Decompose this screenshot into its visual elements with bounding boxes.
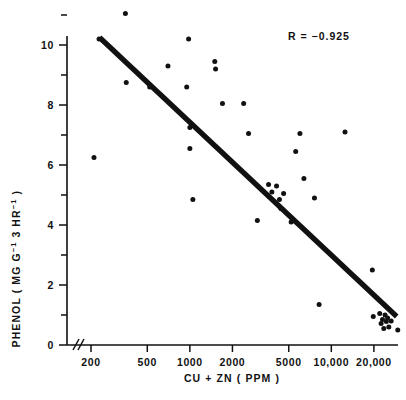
data-point xyxy=(187,146,192,151)
x-axis-title: CU + ZN ( PPM ) xyxy=(184,372,280,384)
data-point xyxy=(277,197,282,202)
data-point xyxy=(301,176,306,181)
data-point xyxy=(213,67,218,72)
chart-canvas: 0246810 20050010002000500010,00020,000 R… xyxy=(0,0,406,400)
data-point xyxy=(123,11,128,16)
data-point xyxy=(312,196,317,201)
y-tick-label-6: 6 xyxy=(48,159,54,171)
data-point xyxy=(395,328,400,333)
x-tick-label-500: 500 xyxy=(138,356,157,368)
data-point xyxy=(389,319,394,324)
data-point xyxy=(124,80,129,85)
correlation-annotation: R = −0.925 xyxy=(288,30,350,42)
data-point xyxy=(317,302,322,307)
y-tick-label-8: 8 xyxy=(48,99,54,111)
x-tick-label-10000: 10,000 xyxy=(313,356,349,368)
data-point xyxy=(293,149,298,154)
data-point xyxy=(289,220,294,225)
x-tick-label-1000: 1000 xyxy=(177,356,203,368)
y-title-suffix: ) xyxy=(10,190,22,199)
data-point xyxy=(377,311,382,316)
y-axis-tick-marks xyxy=(59,15,67,345)
data-point xyxy=(269,190,274,195)
x-axis-tick-labels: 20050010002000500010,00020,000 xyxy=(81,356,391,368)
data-point xyxy=(386,325,391,330)
y-title-middle: 3 HR xyxy=(10,209,22,241)
data-point xyxy=(220,101,225,106)
x-tick-label-200: 200 xyxy=(81,356,100,368)
y-tick-label-10: 10 xyxy=(41,39,54,51)
data-point xyxy=(343,130,348,135)
y-title-exponent-2: −1 xyxy=(9,199,18,210)
data-point xyxy=(186,37,191,42)
data-point xyxy=(266,182,271,187)
data-point xyxy=(297,131,302,136)
data-point xyxy=(255,218,260,223)
data-point xyxy=(97,37,102,42)
data-point xyxy=(190,197,195,202)
data-point xyxy=(187,125,192,130)
x-tick-label-5000: 5000 xyxy=(276,356,302,368)
svg-text:PHENOL ( MG G−1 3 HR−1 ): PHENOL ( MG G−1 3 HR−1 ) xyxy=(9,190,22,347)
regression-line xyxy=(100,38,397,317)
y-title-prefix: PHENOL ( MG G xyxy=(10,252,22,347)
data-point xyxy=(281,191,286,196)
data-point xyxy=(165,64,170,69)
y-title-exponent-1: −1 xyxy=(9,242,18,253)
data-point xyxy=(184,85,189,90)
data-point xyxy=(274,184,279,189)
data-point xyxy=(91,155,96,160)
data-point xyxy=(241,101,246,106)
data-point xyxy=(246,131,251,136)
scatter-plot-figure: 0246810 20050010002000500010,00020,000 R… xyxy=(0,0,406,400)
data-point xyxy=(212,59,217,64)
data-point xyxy=(147,85,152,90)
x-axis-tick-marks xyxy=(91,345,374,352)
x-tick-label-20000: 20,000 xyxy=(356,356,392,368)
y-axis-tick-labels: 0246810 xyxy=(41,39,54,351)
x-tick-label-2000: 2000 xyxy=(220,356,246,368)
y-tick-label-4: 4 xyxy=(48,219,54,231)
data-point xyxy=(278,206,283,211)
data-point xyxy=(371,314,376,319)
y-tick-label-0: 0 xyxy=(48,339,54,351)
y-tick-label-2: 2 xyxy=(48,279,54,291)
y-axis-title: PHENOL ( MG G−1 3 HR−1 ) xyxy=(9,190,22,347)
data-point xyxy=(370,268,375,273)
data-point xyxy=(381,326,386,331)
